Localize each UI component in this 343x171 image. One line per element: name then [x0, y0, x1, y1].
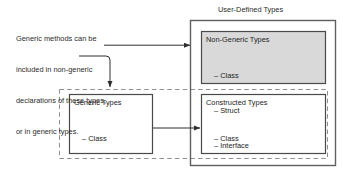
non-generic-item-class: – Class: [214, 70, 249, 82]
generic-item-struct: – Struct: [82, 168, 117, 171]
generic-item-class: – Class: [82, 133, 117, 145]
generic-types-items: – Class – Struct – Interface: [82, 110, 117, 171]
constructed-item-class: – Class: [214, 133, 249, 145]
constructed-types-title: Constructed Types: [206, 98, 268, 107]
caption-line-1: Generic methods can be: [16, 34, 166, 44]
generic-types-title: Generic Types: [74, 98, 122, 107]
caption-line-2: included in non-generic: [16, 65, 166, 75]
constructed-item-struct: – Struct: [214, 168, 249, 171]
user-defined-types-label: User-Defined Types: [218, 5, 283, 15]
constructed-types-items: – Class – Struct – Interface: [214, 110, 249, 171]
non-generic-types-title: Non-Generic Types: [206, 35, 270, 44]
diagram-canvas: Generic methods can be included in non-g…: [0, 0, 343, 171]
